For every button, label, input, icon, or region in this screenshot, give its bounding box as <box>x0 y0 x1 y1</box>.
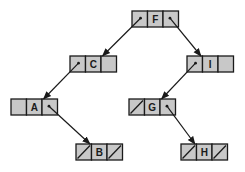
tree-nodes: FCIAGBH <box>11 11 234 160</box>
edge-f-to-c <box>103 18 141 56</box>
edge-f-to-i <box>170 18 201 56</box>
tree-node-g: G <box>129 99 176 115</box>
node-label: I <box>209 59 212 70</box>
right-pointer-cell <box>101 56 117 72</box>
edge-g-to-h <box>167 106 195 144</box>
tree-edges <box>44 17 201 144</box>
node-label: H <box>201 147 208 158</box>
tree-node-b: B <box>76 144 123 160</box>
right-pointer-cell <box>218 56 234 72</box>
node-label: G <box>148 102 156 113</box>
edge-a-to-b <box>49 106 90 144</box>
node-label: A <box>31 102 38 113</box>
node-label: B <box>96 147 103 158</box>
binary-tree-diagram: FCIAGBH <box>0 0 245 172</box>
edge-c-to-a <box>44 63 79 99</box>
tree-node-h: H <box>181 144 228 160</box>
edge-i-to-g <box>162 63 196 99</box>
left-pointer-cell <box>11 99 27 115</box>
node-label: F <box>152 14 158 25</box>
node-label: C <box>90 59 97 70</box>
